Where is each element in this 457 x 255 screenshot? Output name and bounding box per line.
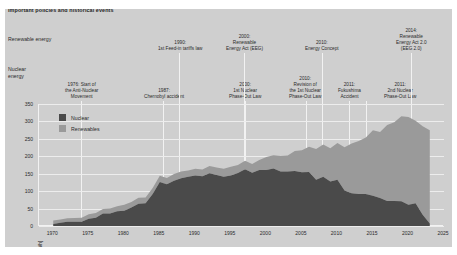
annotation-line: 1st Feed-in tariffs law: [158, 46, 202, 52]
row-label-renewable-energy: Renewable energy: [8, 36, 51, 43]
grid-line: [39, 226, 444, 227]
y-tick-label: 300: [7, 118, 33, 124]
annotation-line: Movement: [65, 94, 98, 100]
annotation-line: Energy Act (EEG): [226, 46, 263, 52]
x-tick-label: 2020: [392, 230, 422, 236]
annotation-fukushima-2011: 2011:FukushimaAccident: [338, 82, 361, 100]
x-tick-label: 2010: [321, 230, 351, 236]
annotation-phase-out-law-1-2000: 2000:1st NuclearPhase-Out Law: [229, 82, 261, 100]
annotation-eeg-2-2014: 2014:RenewableEnergy Act 2.0(EEG 2.0): [396, 28, 427, 52]
legend-label: Nuclear: [71, 115, 89, 121]
annotation-anti-nuclear-movement-1976: 1976: Start ofthe Anti-NuclearMovement: [65, 82, 98, 100]
y-tick-label: 100: [7, 188, 33, 194]
annotation-eeg-2000: 2000:RenewableEnergy Act (EEG): [226, 34, 263, 52]
legend-swatch-icon: [59, 125, 66, 132]
row-label-nuclear-line1: Nuclear: [8, 66, 26, 72]
annotation-line: Revision of: [289, 82, 321, 88]
row-label-nuclear-line2: energy: [8, 73, 24, 79]
annotation-line: Fukushima: [338, 88, 361, 94]
x-tick-label: 2005: [286, 230, 316, 236]
y-tick-label: 0: [7, 223, 33, 229]
chart-figure: Important policies and historical events…: [0, 0, 457, 255]
annotation-phase-out-revision-2010: 2010:Revision ofthe 1st NuclearPhase-Out…: [289, 76, 321, 100]
y-tick-label: 150: [7, 171, 33, 177]
y-tick-label: 200: [7, 153, 33, 159]
annotation-line: Phase-Out Law: [229, 94, 261, 100]
annotation-line: (EEG 2.0): [396, 46, 427, 52]
plot-box: NuclearRenewables: [38, 104, 443, 226]
chart-legend: NuclearRenewables: [59, 114, 100, 136]
x-tick-label: 1985: [144, 230, 174, 236]
annotation-line: Renewable: [396, 34, 427, 40]
annotation-line: Accident: [338, 94, 361, 100]
y-tick-label: 350: [7, 101, 33, 107]
annotation-feed-in-tariffs-1990: 1990:1st Feed-in tariffs law: [158, 40, 202, 52]
x-tick-label: 2015: [357, 230, 387, 236]
legend-swatch-icon: [59, 114, 66, 121]
annotation-line: Energy Concept: [305, 46, 339, 52]
x-tick-label: 1970: [37, 230, 67, 236]
x-tick-label: 1975: [73, 230, 103, 236]
x-tick-label: 1980: [108, 230, 138, 236]
annotation-line: 1st Nuclear: [229, 88, 261, 94]
y-tick-label: 50: [7, 206, 33, 212]
bottom-margin: [0, 247, 457, 255]
stacked-area-series: [39, 104, 444, 226]
legend-label: Renewables: [71, 126, 100, 132]
chart-area: [TWh] 050100150200250300350 NuclearRenew…: [38, 104, 443, 226]
annotation-line: Phase-Out Law: [289, 94, 321, 100]
y-tick-label: 250: [7, 136, 33, 142]
annotation-line: Energy Act 2.0: [396, 40, 427, 46]
top-margin: [0, 0, 457, 9]
x-tick-label: 2000: [250, 230, 280, 236]
annotation-energy-concept-2010: 2010:Energy Concept: [305, 40, 339, 52]
left-margin: [0, 0, 5, 255]
annotation-line: the Anti-Nuclear: [65, 88, 98, 94]
x-tick-label: 1990: [179, 230, 209, 236]
row-label-nuclear-energy: Nuclear energy: [8, 66, 26, 79]
legend-item: Nuclear: [59, 114, 100, 121]
right-margin: [452, 0, 457, 255]
legend-item: Renewables: [59, 125, 100, 132]
x-tick-label: 1995: [215, 230, 245, 236]
annotation-line: the 1st Nuclear: [289, 88, 321, 94]
